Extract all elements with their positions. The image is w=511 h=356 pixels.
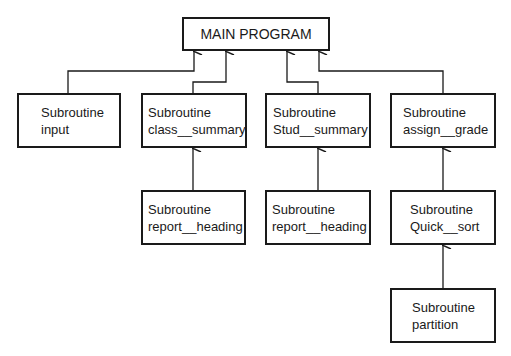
node-name: report__heading <box>272 218 369 235</box>
edge-assign-grade-main <box>319 51 443 93</box>
node-title: Subroutine <box>273 104 369 121</box>
node-name: input <box>41 121 119 138</box>
node-title: Subroutine <box>41 104 119 121</box>
subroutine-class-summary-box: Subroutine class__summary <box>141 93 247 148</box>
node-name: Stud__summary <box>273 121 369 138</box>
node-name: assign__grade <box>403 121 494 138</box>
subroutine-report-heading-box-2: Subroutine report__heading <box>265 190 371 245</box>
node-title: Subroutine <box>410 201 494 218</box>
node-name: partition <box>412 316 494 333</box>
node-name: Quick__sort <box>410 218 494 235</box>
edge-class-summary-main <box>193 51 226 93</box>
node-title: Subroutine <box>403 104 494 121</box>
subroutine-assign-grade-box: Subroutine assign__grade <box>390 93 496 148</box>
main-program-box: MAIN PROGRAM <box>182 17 330 51</box>
subroutine-stud-summary-box: Subroutine Stud__summary <box>265 93 371 148</box>
edge-stud-summary-main <box>287 51 318 93</box>
node-title: Subroutine <box>148 201 244 218</box>
node-title: Subroutine <box>412 299 494 316</box>
node-title: Subroutine <box>272 201 369 218</box>
node-name: class__summary <box>148 121 245 138</box>
subroutine-input-box: Subroutine input <box>17 93 121 148</box>
node-name: report__heading <box>148 218 244 235</box>
main-program-label: MAIN PROGRAM <box>184 26 328 43</box>
subroutine-report-heading-box-1: Subroutine report__heading <box>141 190 246 245</box>
node-title: Subroutine <box>148 104 245 121</box>
subroutine-partition-box: Subroutine partition <box>390 288 496 343</box>
subroutine-quick-sort-box: Subroutine Quick__sort <box>390 190 496 245</box>
edge-input-main <box>68 51 194 93</box>
